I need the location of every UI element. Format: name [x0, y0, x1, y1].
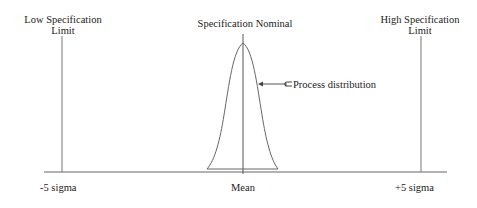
mean-label: Mean — [223, 182, 263, 193]
low-spec-limit-label: Low Specification Limit — [18, 14, 108, 36]
minus-sigma-label: -5 sigma — [40, 182, 76, 193]
low-spec-label-line1: Low Specification — [18, 14, 108, 25]
process-distribution-label: Process distribution — [293, 79, 376, 90]
high-spec-label-line1: High Specification — [372, 14, 468, 25]
arrow-head-icon — [258, 82, 263, 87]
spec-nominal-label: Specification Nominal — [190, 18, 300, 29]
plus-sigma-label: +5 sigma — [395, 182, 434, 193]
low-spec-label-line2: Limit — [18, 25, 108, 36]
high-spec-limit-label: High Specification Limit — [372, 14, 468, 36]
high-spec-label-line2: Limit — [372, 25, 468, 36]
